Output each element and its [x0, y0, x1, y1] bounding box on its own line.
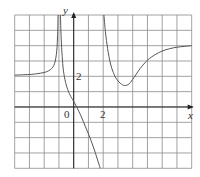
grid-lines — [15, 15, 192, 168]
function-graph — [0, 0, 200, 177]
x-axis-label: x — [188, 110, 193, 121]
curve-left-branch — [15, 15, 58, 75]
y-axis-label: y — [63, 5, 68, 16]
x-tick-label-2: 2 — [100, 109, 106, 120]
y-tick-label-2: 2 — [76, 71, 82, 82]
axes — [15, 12, 194, 168]
origin-label: 0 — [64, 109, 70, 120]
